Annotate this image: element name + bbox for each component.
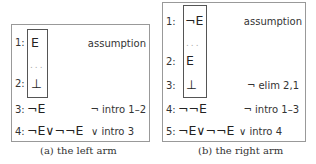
formula: ¬¬E	[178, 102, 207, 116]
justification: ¬ intro 1–2	[90, 104, 146, 116]
justification: ¬ elim 2,1	[247, 80, 299, 92]
formula: ¬E∨¬¬E	[178, 124, 234, 138]
ellipsis: ...	[186, 38, 201, 48]
justification: ∨ intro 4	[239, 126, 282, 138]
line-number: 1:	[15, 37, 25, 49]
line-number: 2:	[166, 56, 176, 68]
formula: E	[31, 36, 39, 50]
line-number: 2:	[15, 78, 25, 90]
formula: E	[186, 54, 194, 68]
formula: ¬E∨¬¬E	[27, 124, 83, 138]
justification: assumption	[88, 38, 146, 50]
formula: ⊥	[31, 77, 42, 91]
caption: (b) the right arm	[198, 145, 283, 156]
line-number: 5:	[166, 126, 176, 138]
line-number: 3:	[166, 80, 176, 92]
formula: ¬E	[27, 102, 45, 116]
justification: assumption	[244, 16, 302, 28]
ellipsis: ...	[30, 60, 45, 70]
line-number: 1:	[166, 16, 176, 28]
formula: ⊥	[186, 78, 197, 92]
line-number: 3:	[15, 104, 25, 116]
formula: ¬E	[185, 14, 203, 28]
caption: (a) the left arm	[40, 145, 117, 156]
justification: ¬ intro 1–3	[243, 104, 299, 116]
line-number: 4:	[15, 126, 25, 138]
line-number: 4:	[166, 104, 176, 116]
justification: ∨ intro 3	[91, 126, 134, 138]
